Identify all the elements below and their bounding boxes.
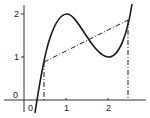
x-label-2: 2 bbox=[106, 103, 111, 113]
graph-canvas: 2 1 0 0 1 2 bbox=[0, 0, 150, 118]
secant-line bbox=[44, 20, 128, 62]
y-label-1: 1 bbox=[14, 52, 19, 62]
x-origin-label: 0 bbox=[28, 103, 33, 113]
y-origin-label: 0 bbox=[13, 90, 18, 100]
cubic-curve bbox=[35, 4, 132, 113]
diagram: 2 1 0 0 1 2 bbox=[0, 0, 150, 118]
y-label-2: 2 bbox=[14, 9, 19, 19]
x-label-1: 1 bbox=[64, 103, 69, 113]
